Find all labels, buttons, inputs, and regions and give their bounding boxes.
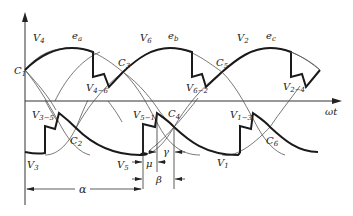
y-axis-arrow-icon [22, 12, 28, 22]
label-c1: C1 [14, 65, 26, 78]
label-beta: β [155, 174, 162, 185]
label-v2-4: V2−4 [283, 81, 305, 94]
label-eb: eb [168, 30, 179, 43]
label-v2: V2 [237, 32, 249, 45]
upper-envelope-end [291, 52, 320, 70]
beta-arrow-left-icon [135, 177, 142, 181]
label-c4: C4 [168, 108, 180, 121]
label-c6: C6 [266, 135, 279, 148]
label-ec: ec [266, 30, 276, 43]
mu-arrow-left-icon [135, 160, 142, 164]
label-v5-1: V5−1 [133, 109, 155, 122]
label-mu: μ [146, 158, 153, 169]
phase-cross-lines-2 [76, 100, 88, 128]
upper-envelope-v4 [25, 48, 123, 87]
label-v1: V1 [217, 157, 229, 170]
x-axis-arrow-icon [332, 98, 342, 104]
upper-envelope [25, 48, 320, 87]
x-axis-label: ωt [325, 106, 338, 117]
commutation-waveform-diagram: ωt V4 ea V6 eb [0, 0, 353, 216]
label-v4: V4 [33, 32, 45, 45]
gamma-arrow-left-icon [149, 150, 156, 154]
label-c3: C3 [118, 57, 131, 70]
label-alpha: α [79, 183, 87, 196]
upper-envelope-v6 [123, 48, 222, 87]
label-ea: ea [72, 30, 82, 43]
mu-arrow-right-icon [158, 160, 165, 164]
alpha-arrow-left-icon [26, 187, 34, 191]
gamma-arrow-right-icon [175, 150, 182, 154]
alpha-arrow-right-icon [134, 187, 142, 191]
label-v5: V5 [117, 159, 129, 172]
label-v6: V6 [140, 32, 152, 45]
label-v4-6: V4−6 [86, 82, 109, 95]
phase-a-rise-curve [222, 86, 300, 155]
axes: ωt [22, 12, 342, 205]
upper-envelope-v2 [222, 48, 320, 87]
label-v3: V3 [27, 159, 39, 172]
label-c2: C2 [70, 135, 83, 148]
upper-labels: V4 ea V6 eb V2 ec V4−6 V6−2 V2−4 [33, 30, 305, 95]
beta-arrow-right-icon [175, 177, 182, 181]
label-c5: C5 [216, 57, 229, 70]
label-gamma: γ [163, 146, 169, 157]
